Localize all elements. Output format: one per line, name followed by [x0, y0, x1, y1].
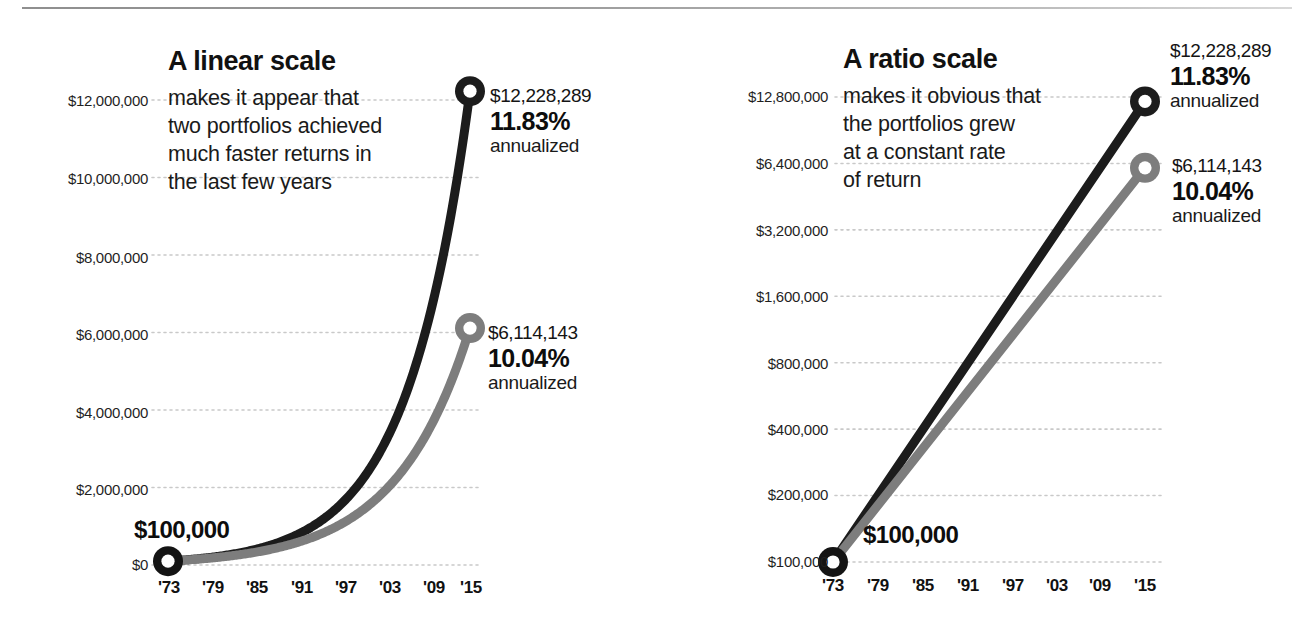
ratio-blurb-line-1: makes it obvious that	[843, 82, 1041, 110]
ratio-xtick-5: '03	[1036, 576, 1078, 596]
linear-ytick-5: $2,000,000	[0, 481, 148, 498]
ratio-callout-gray-pct: 10.04%	[1172, 177, 1262, 205]
ratio-ytick-7: $100,000	[660, 553, 828, 570]
linear-callout-gray-annualized: annualized	[488, 372, 578, 394]
ratio-ytick-0: $12,800,000	[660, 88, 828, 105]
linear-xtick-1: '79	[192, 578, 234, 598]
ratio-scale-panel: A ratio scale makes it obvious that the …	[660, 0, 1315, 643]
linear-scale-panel: A linear scale makes it appear that two …	[0, 0, 660, 643]
ratio-blurb: makes it obvious that the portfolios gre…	[843, 82, 1041, 194]
linear-ytick-6: $0	[0, 556, 148, 573]
linear-callout-black: $12,228,289 11.83% annualized	[490, 85, 591, 157]
linear-ytick-4: $4,000,000	[0, 404, 148, 421]
linear-start-value-label: $100,000	[134, 516, 229, 544]
linear-xtick-3: '91	[281, 578, 323, 598]
linear-xtick-5: '03	[369, 578, 411, 598]
ratio-start-value-label: $100,000	[863, 521, 958, 549]
linear-xtick-2: '85	[236, 578, 278, 598]
ratio-ytick-3: $1,600,000	[660, 288, 828, 305]
linear-ytick-1: $10,000,000	[0, 170, 148, 187]
ratio-blurb-line-3: at a constant rate	[843, 138, 1041, 166]
linear-blurb-line-3: much faster returns in	[168, 140, 382, 168]
linear-ytick-3: $6,000,000	[0, 326, 148, 343]
ratio-xtick-3: '91	[947, 576, 989, 596]
ratio-xtick-7: '15	[1124, 576, 1166, 596]
ratio-end-marker-center-gray	[1138, 161, 1151, 174]
linear-xtick-0: '73	[148, 578, 190, 598]
linear-start-marker-center	[161, 555, 174, 568]
figure-root: A linear scale makes it appear that two …	[0, 0, 1315, 643]
linear-callout-black-amount: $12,228,289	[490, 85, 591, 107]
linear-ytick-0: $12,000,000	[0, 92, 148, 109]
linear-xtick-7: '15	[450, 578, 492, 598]
ratio-xtick-2: '85	[902, 576, 944, 596]
ratio-callout-black-amount: $12,228,289	[1170, 40, 1271, 62]
ratio-callout-black-pct: 11.83%	[1170, 62, 1271, 90]
ratio-callout-gray: $6,114,143 10.04% annualized	[1172, 155, 1262, 227]
linear-xtick-6: '09	[413, 578, 455, 598]
ratio-end-marker-center-black	[1138, 95, 1151, 108]
ratio-ytick-4: $800,000	[660, 355, 828, 372]
ratio-ytick-6: $200,000	[660, 486, 828, 503]
ratio-xtick-1: '79	[857, 576, 899, 596]
linear-ytick-2: $8,000,000	[0, 249, 148, 266]
ratio-blurb-line-4: of return	[843, 166, 1041, 194]
linear-callout-gray: $6,114,143 10.04% annualized	[488, 322, 578, 394]
linear-callout-gray-amount: $6,114,143	[488, 322, 578, 344]
linear-blurb-line-2: two portfolios achieved	[168, 112, 382, 140]
linear-end-marker-center-black	[463, 85, 476, 98]
ratio-callout-gray-annualized: annualized	[1172, 205, 1262, 227]
ratio-callout-black-annualized: annualized	[1170, 90, 1271, 112]
linear-headline: A linear scale	[168, 48, 336, 75]
linear-blurb: makes it appear that two portfolios achi…	[168, 84, 382, 196]
ratio-ytick-5: $400,000	[660, 421, 828, 438]
linear-blurb-line-4: the last few years	[168, 168, 382, 196]
ratio-xtick-6: '09	[1079, 576, 1121, 596]
linear-blurb-line-1: makes it appear that	[168, 84, 382, 112]
ratio-blurb-line-2: the portfolios grew	[843, 110, 1041, 138]
ratio-start-marker-center	[826, 555, 839, 568]
linear-callout-gray-pct: 10.04%	[488, 344, 578, 372]
ratio-headline: A ratio scale	[843, 46, 997, 73]
ratio-series-line-gray	[833, 168, 1145, 562]
linear-callout-black-pct: 11.83%	[490, 107, 591, 135]
linear-xtick-4: '97	[325, 578, 367, 598]
linear-end-marker-center-gray	[463, 321, 476, 334]
linear-callout-black-annualized: annualized	[490, 135, 591, 157]
ratio-xtick-0: '73	[812, 576, 854, 596]
ratio-xtick-4: '97	[992, 576, 1034, 596]
ratio-ytick-2: $3,200,000	[660, 222, 828, 239]
ratio-callout-black: $12,228,289 11.83% annualized	[1170, 40, 1271, 112]
ratio-callout-gray-amount: $6,114,143	[1172, 155, 1262, 177]
ratio-ytick-1: $6,400,000	[660, 155, 828, 172]
